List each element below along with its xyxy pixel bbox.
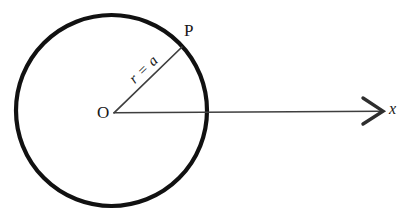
- circle-shape: [16, 15, 207, 206]
- origin-label: O: [97, 104, 109, 121]
- circle-diagram-figure: O P x r = a: [0, 0, 407, 223]
- point-p-label: P: [184, 22, 193, 39]
- x-axis-line: [114, 111, 381, 113]
- diagram-canvas: [0, 0, 407, 223]
- x-axis-label: x: [389, 101, 396, 117]
